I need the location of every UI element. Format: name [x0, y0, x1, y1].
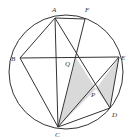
label-c: C: [55, 131, 60, 139]
label-p: P: [90, 91, 96, 99]
segment-ab: [20, 18, 55, 58]
label-b: B: [11, 55, 16, 63]
geometry-figure: A F B E Q P D C: [0, 0, 132, 140]
segment-be: [20, 57, 119, 58]
segment-bc: [20, 58, 58, 127]
label-f: F: [84, 6, 90, 14]
label-q: Q: [65, 60, 70, 68]
segment-af: [55, 18, 85, 19]
label-a: A: [51, 6, 57, 14]
diagram-canvas: A F B E Q P D C: [0, 0, 132, 140]
segment-ac: [55, 18, 58, 127]
label-d: D: [111, 111, 117, 119]
label-e: E: [120, 54, 126, 62]
